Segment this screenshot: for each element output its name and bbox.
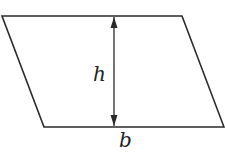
height-arrow	[111, 17, 118, 126]
arrow-down-icon	[111, 115, 118, 126]
height-label: h	[93, 62, 106, 86]
parallelogram-shape	[2, 16, 224, 127]
arrow-up-icon	[111, 17, 118, 28]
base-label: b	[119, 128, 132, 152]
parallelogram-diagram: h b	[0, 0, 225, 152]
